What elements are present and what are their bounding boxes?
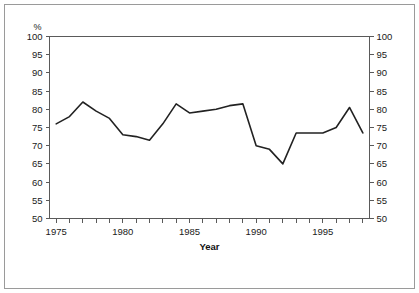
x-tick-label: 1985 [179,226,200,237]
y-tick-label-right: 90 [377,67,388,78]
y-tick-label-left: 65 [32,158,43,169]
line-chart: 5055606570758085909510050556065707580859… [0,0,419,293]
y-tick-label-right: 95 [377,49,388,60]
y-tick-label-left: 50 [32,213,43,224]
y-axis-unit-label: % [34,22,42,32]
y-tick-label-left: 100 [27,31,43,42]
y-tick-label-right: 50 [377,213,388,224]
x-axis-title: Year [199,241,219,252]
y-tick-label-right: 85 [377,86,388,97]
y-tick-label-right: 100 [377,31,393,42]
x-tick-label: 1990 [246,226,267,237]
y-tick-label-right: 60 [377,177,388,188]
chart-figure: 5055606570758085909510050556065707580859… [0,0,419,293]
y-tick-label-right: 65 [377,158,388,169]
y-tick-label-left: 90 [32,67,43,78]
data-series-line [56,102,363,164]
y-tick-label-left: 60 [32,177,43,188]
x-tick-label: 1995 [312,226,333,237]
y-tick-label-left: 75 [32,122,43,133]
y-tick-label-right: 80 [377,104,388,115]
y-tick-label-left: 70 [32,140,43,151]
y-tick-label-left: 55 [32,195,43,206]
y-tick-label-left: 80 [32,104,43,115]
y-tick-label-left: 85 [32,86,43,97]
y-tick-label-right: 70 [377,140,388,151]
x-tick-label: 1980 [112,226,133,237]
x-tick-label: 1975 [46,226,67,237]
y-tick-label-right: 55 [377,195,388,206]
y-tick-label-left: 95 [32,49,43,60]
y-tick-label-right: 75 [377,122,388,133]
